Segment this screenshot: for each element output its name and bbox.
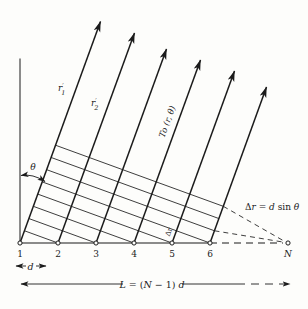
spacing-label: d bbox=[27, 261, 33, 272]
r1-subscript: 1 bbox=[61, 89, 65, 97]
eq-theta: θ bbox=[294, 202, 300, 212]
theta-label: θ bbox=[30, 162, 36, 172]
eq-equals: = bbox=[256, 202, 269, 212]
wavefront-line bbox=[47, 170, 215, 231]
wavefront-line bbox=[24, 231, 58, 243]
wavefront-line bbox=[56, 145, 224, 206]
r2-subscript: 2 bbox=[93, 104, 98, 112]
antenna-array-diagram: 1 2 3 4 5 6 N r′1 r′2 To (r, θ) θ Δr Δr … bbox=[0, 0, 308, 309]
len-minus-one: − 1) bbox=[152, 279, 179, 290]
diagram-canvas: 1 2 3 4 5 6 N r′1 r′2 To (r, θ) θ Δr Δr … bbox=[0, 0, 308, 309]
ray-label-r2: r′2 bbox=[91, 97, 98, 112]
element-marker-2 bbox=[56, 241, 60, 245]
eq-sin: sin bbox=[275, 202, 294, 212]
delta-r-equation: Δr = d sin θ bbox=[245, 202, 300, 212]
len-L: L bbox=[118, 279, 125, 290]
length-equation: L = (N − 1) d bbox=[118, 279, 184, 290]
ray-label-r1: r′1 bbox=[58, 82, 65, 97]
ray-6 bbox=[210, 87, 267, 243]
element-label-1: 1 bbox=[17, 249, 23, 259]
element-marker-3 bbox=[94, 241, 98, 245]
element-marker-1 bbox=[18, 241, 22, 245]
element-marker-4 bbox=[132, 241, 136, 245]
element-label-6: 6 bbox=[207, 249, 213, 259]
element-marker-5 bbox=[170, 241, 174, 245]
element-label-5: 5 bbox=[169, 249, 175, 259]
theta-angle-arrow bbox=[21, 175, 45, 181]
element-label-4: 4 bbox=[131, 249, 137, 259]
wavefront-line bbox=[33, 206, 134, 243]
delta-r-small-label: Δr bbox=[164, 226, 175, 237]
element-label-N: N bbox=[283, 249, 293, 259]
element-marker-6 bbox=[208, 241, 212, 245]
wavefront-line bbox=[51, 157, 219, 218]
wavefront-extension-dashed bbox=[214, 231, 284, 243]
element-label-3: 3 bbox=[93, 249, 99, 259]
rays bbox=[20, 22, 267, 244]
element-marker-N bbox=[286, 241, 290, 245]
wavefront-line bbox=[42, 182, 210, 243]
len-open: = ( bbox=[126, 279, 144, 290]
element-labels: 1 2 3 4 5 6 N bbox=[17, 249, 293, 259]
len-d: d bbox=[179, 279, 185, 290]
ray-4 bbox=[134, 60, 201, 243]
element-label-2: 2 bbox=[55, 249, 61, 259]
ray-1 bbox=[20, 22, 101, 244]
ray-5 bbox=[172, 71, 235, 243]
